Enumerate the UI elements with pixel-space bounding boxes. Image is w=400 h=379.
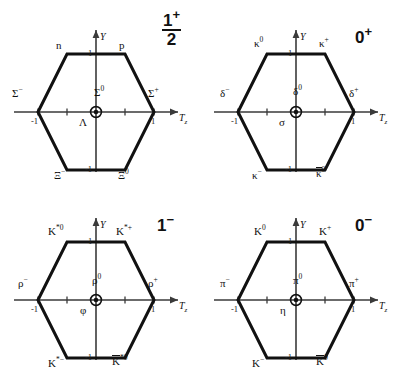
state-top-left: n (56, 40, 62, 51)
x-axis-label: Tz (179, 300, 187, 311)
state-top-right: K*+ (116, 226, 132, 237)
tick-label-y-neg: -1 (85, 164, 92, 174)
tick-label-y-pos: 1 (288, 236, 292, 246)
x-axis-label: Tz (179, 112, 187, 123)
state-mid-left: Σ− (12, 88, 23, 99)
state-center-upper: π0 (293, 275, 302, 286)
su3-weight-diagram-figure: Y Tz -1 1 1 -1 n p Σ− Σ+ Σ0 Λ Ξ− Ξ0 1+2 (0, 0, 400, 379)
tick-label-x-neg: -1 (231, 116, 238, 126)
panel-vector-nonet: Y Tz -1 1 1 -1 K*0 K*+ ρ− ρ+ ρ0 φ K*− K*… (0, 190, 200, 379)
axis-group (14, 218, 178, 360)
state-mid-right: Σ+ (148, 88, 159, 99)
tick-label-x-pos: 1 (151, 116, 155, 126)
tick-label-x-neg: -1 (31, 304, 38, 314)
y-axis-label: Y (300, 31, 306, 42)
x-axis-label: Tz (379, 300, 387, 311)
quantum-number-label: 1+2 (162, 12, 181, 49)
state-bottom-right: Ξ0 (118, 170, 129, 181)
state-bottom-right: K0 (316, 356, 328, 367)
tick-label-y-neg: -1 (85, 352, 92, 362)
state-center-upper: δ0 (293, 86, 302, 97)
state-top-right: p (119, 40, 125, 51)
state-top-right: κ+ (319, 38, 329, 49)
quantum-number-label: 0+ (355, 28, 372, 48)
quantum-number-label: 1− (157, 216, 174, 236)
tick-label-y-pos: 1 (288, 48, 292, 58)
state-top-left: K0 (254, 226, 266, 237)
state-mid-left: π− (220, 278, 230, 289)
state-bottom-left: Ξ− (54, 170, 65, 181)
panel-baryon-octet: Y Tz -1 1 1 -1 n p Σ− Σ+ Σ0 Λ Ξ− Ξ0 1+2 (0, 0, 200, 190)
state-bottom-right: κ0 (316, 168, 325, 179)
state-center-lower: Λ (79, 117, 87, 128)
tick-label-x-neg: -1 (231, 304, 238, 314)
y-axis-label: Y (100, 31, 106, 42)
panel-pseudoscalar-nonet: Y Tz -1 1 1 -1 K0 K+ π− π+ π0 η K− K0 0− (200, 190, 400, 379)
state-bottom-left: K− (252, 358, 264, 369)
axis-group (214, 30, 378, 172)
state-bottom-left: K*− (48, 358, 64, 369)
y-axis-label: Y (100, 219, 106, 230)
state-top-left: K*0 (48, 226, 63, 237)
state-mid-right: π+ (349, 278, 359, 289)
state-center-upper: Σ0 (94, 87, 104, 98)
tick-label-x-pos: 1 (351, 304, 355, 314)
state-top-right: K+ (319, 226, 331, 237)
tick-label-x-neg: -1 (31, 116, 38, 126)
state-center-lower: σ (279, 117, 285, 128)
tick-label-x-pos: 1 (351, 116, 355, 126)
tick-label-y-pos: 1 (88, 48, 92, 58)
state-mid-right: ρ+ (148, 278, 158, 289)
state-mid-left: ρ− (18, 278, 28, 289)
x-axis-label: Tz (379, 112, 387, 123)
state-mid-right: δ+ (349, 88, 358, 99)
tick-label-x-pos: 1 (151, 304, 155, 314)
state-center-lower: η (280, 305, 286, 316)
tick-label-y-neg: -1 (285, 352, 292, 362)
state-top-left: κ0 (254, 38, 263, 49)
axis-group (14, 30, 178, 172)
panel-scalar-nonet: Y Tz -1 1 1 -1 κ0 κ+ δ− δ+ δ0 σ κ− κ0 0+ (200, 0, 400, 190)
state-bottom-right: K*0 (112, 356, 127, 367)
tick-label-y-neg: -1 (285, 164, 292, 174)
state-center-upper: ρ0 (92, 275, 101, 286)
quantum-number-label: 0− (355, 216, 372, 236)
axis-group (214, 218, 378, 360)
state-mid-left: δ− (220, 88, 229, 99)
state-bottom-left: κ− (252, 170, 262, 181)
state-center-lower: φ (80, 305, 86, 316)
tick-label-y-pos: 1 (88, 236, 92, 246)
y-axis-label: Y (300, 219, 306, 230)
